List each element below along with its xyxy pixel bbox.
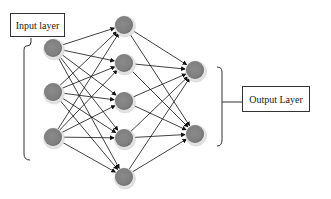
input-layer-label: Input layer — [10, 13, 65, 37]
connection-arrow — [131, 135, 185, 138]
connection-arrow — [130, 139, 186, 173]
hidden-node — [115, 16, 133, 34]
input-node — [44, 39, 62, 57]
connection-arrow — [128, 78, 190, 171]
hidden-node — [115, 168, 133, 186]
hidden-node — [115, 54, 133, 72]
output-node — [186, 125, 204, 143]
hidden-node — [115, 129, 133, 147]
connection-arrow — [60, 28, 115, 46]
input-bracket — [24, 38, 31, 160]
connection-arrow — [57, 33, 119, 131]
connection-arrow — [60, 137, 114, 138]
connection-arrow — [57, 97, 117, 169]
connection-arrow — [131, 64, 185, 69]
neurons — [44, 16, 207, 189]
connection-arrow — [60, 93, 114, 100]
connection-arrow — [56, 54, 119, 168]
output-layer-label: Output Layer — [242, 86, 310, 112]
output-bracket — [217, 67, 242, 146]
input-node — [44, 83, 62, 101]
hidden-node — [115, 92, 133, 110]
input-node — [44, 128, 62, 146]
connection-arrow — [128, 31, 190, 126]
connection-arrow — [57, 53, 117, 130]
output-node — [186, 61, 204, 79]
